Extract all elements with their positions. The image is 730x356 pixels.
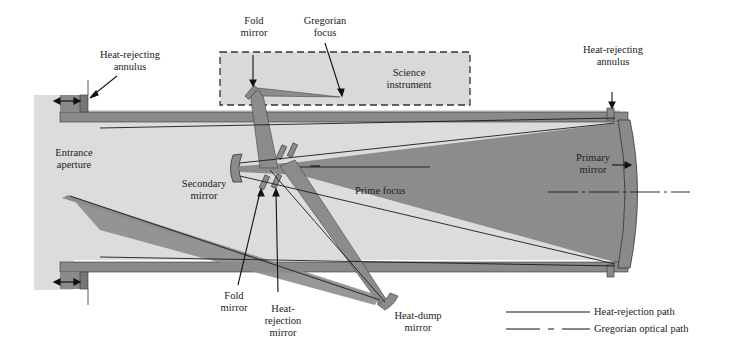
label-heat-rejecting-annulus-left: Heat-rejecting annulus [92,49,168,73]
upper-tube-wall [60,112,628,122]
legend-gregorian-optical-path: Gregorian optical path [594,323,729,335]
label-primary-mirror: Primary mirror [572,152,614,176]
left-annulus-top-plate [80,95,88,112]
lower-tube-wall [60,262,628,272]
left-annulus-bottom-plate [80,272,88,289]
label-heat-dump-mirror: Heat-dump mirror [388,310,448,334]
label-prime-focus: Prime focus [355,185,425,197]
label-fold-mirror-top: Fold mirror [234,15,274,39]
label-heat-rejection-mirror: Heat- rejection mirror [258,303,308,339]
right-annulus-bottom [607,265,614,277]
label-entrance-aperture: Entrance aperture [48,147,100,171]
label-science-instrument: Science instrument [374,67,444,91]
label-heat-rejecting-annulus-right: Heat-rejecting annulus [575,44,651,68]
label-gregorian-focus: Gregorian focus [294,15,356,39]
label-fold-mirror-bottom: Fold mirror [214,290,254,314]
label-secondary-mirror: Secondary mirror [175,178,233,202]
legend-heat-rejection-path: Heat-rejection path [594,306,724,318]
